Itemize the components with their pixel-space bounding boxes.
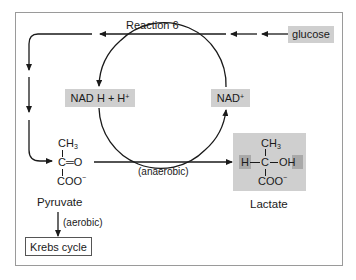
krebs-cycle-box: Krebs cycle	[25, 237, 92, 256]
anaerobic-label: (anaerobic)	[138, 167, 189, 177]
bond-line	[265, 149, 266, 156]
lactate-oh: OH	[279, 157, 296, 168]
pyruvate-name: Pyruvate	[37, 197, 82, 209]
lactate-coo: COO−	[258, 176, 287, 187]
nad-sup: +	[240, 93, 244, 100]
nadh-box: NAD H + H+	[65, 89, 135, 107]
nad-plus-box: NAD+	[211, 89, 250, 107]
bond-line	[270, 162, 278, 163]
bond-line	[250, 162, 260, 163]
pyruvate-ch3: CH3	[58, 138, 78, 149]
lactate-ch3: CH3	[261, 138, 281, 149]
pyruvate-coo: COO−	[57, 176, 86, 187]
aerobic-label: (aerobic)	[63, 218, 102, 228]
nadh-main: NAD	[71, 93, 94, 104]
lactate-box: CH3 H C OH COO−	[233, 133, 306, 191]
pyruvate-carbonyl: C═O	[58, 157, 82, 168]
nadh-sup: +	[125, 93, 129, 100]
glucose-label: glucose	[292, 29, 330, 40]
glucose-box: glucose	[288, 26, 334, 43]
lactate-c: C	[261, 157, 269, 168]
krebs-label: Krebs cycle	[30, 241, 87, 253]
lactate-h: H	[241, 157, 249, 168]
nadh-rest: H + H	[97, 93, 125, 104]
nad-main: NAD	[217, 93, 240, 104]
reaction-label: Reaction 6	[126, 20, 179, 31]
lactate-name: Lactate	[250, 199, 288, 211]
